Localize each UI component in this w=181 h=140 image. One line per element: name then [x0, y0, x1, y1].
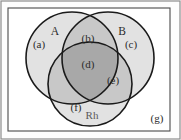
region-label-b: (b): [82, 32, 95, 45]
region-label-g: (g): [151, 112, 164, 125]
region-label-f: (f): [71, 101, 82, 114]
set-label-Rh: Rh: [86, 109, 99, 121]
venn-diagram-canvas: A B Rh (a) (b) (c) (d) (e) (f) (g): [0, 0, 181, 140]
region-label-d: (d): [82, 58, 95, 71]
region-label-a: (a): [33, 38, 46, 51]
region-label-e: (e): [107, 74, 120, 87]
set-label-A: A: [51, 25, 60, 37]
set-label-B: B: [118, 25, 126, 37]
region-label-c: (c): [125, 38, 138, 51]
venn-diagram-figure: A B Rh (a) (b) (c) (d) (e) (f) (g): [0, 0, 181, 140]
